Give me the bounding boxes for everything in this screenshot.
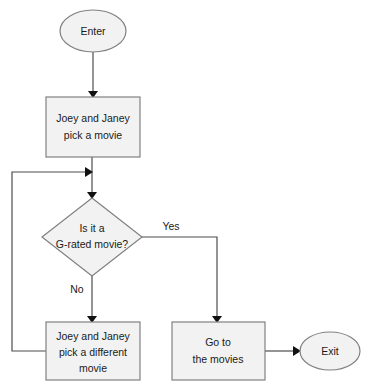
decision-label-line-2: G-rated movie?	[56, 238, 129, 250]
edge-decision-yes-to-go-to-movies	[142, 237, 222, 323]
edge-enter-to-pick-movie	[88, 52, 98, 98]
flowchart-canvas: Enter Joey and Janey pick a movie Is it …	[0, 0, 370, 385]
pick-movie-label-line-2: pick a movie	[64, 129, 123, 141]
edge-label-no: No	[70, 283, 84, 295]
edge-label-yes: Yes	[162, 220, 179, 232]
pick-movie-rect[interactable]	[46, 97, 140, 157]
edge-decision-no-to-pick-different	[87, 276, 97, 323]
node-enter[interactable]: Enter	[60, 10, 126, 52]
pick-different-label-line-2: pick a different	[59, 346, 127, 358]
node-go-to-movies[interactable]: Go to the movies	[172, 322, 265, 380]
edge-pick-movie-to-decision	[87, 157, 97, 199]
exit-label: Exit	[321, 345, 339, 357]
pick-movie-label-line-1: Joey and Janey	[56, 112, 130, 124]
edge-line	[142, 237, 217, 317]
node-g-rated-decision[interactable]: Is it a G-rated movie?	[42, 198, 142, 276]
go-to-movies-label-line-1: Go to	[205, 336, 231, 348]
go-to-movies-label-line-2: the movies	[193, 353, 244, 365]
go-to-movies-rect[interactable]	[172, 322, 265, 380]
node-pick-different-movie[interactable]: Joey and Janey pick a different movie	[46, 322, 140, 380]
decision-label-line-1: Is it a	[79, 222, 104, 234]
node-pick-movie[interactable]: Joey and Janey pick a movie	[46, 97, 140, 157]
enter-label: Enter	[80, 25, 106, 37]
node-exit[interactable]: Exit	[300, 332, 360, 370]
flowchart-page: Enter Joey and Janey pick a movie Is it …	[0, 0, 370, 385]
edge-go-to-movies-to-exit	[265, 346, 301, 356]
pick-different-label-line-1: Joey and Janey	[56, 330, 130, 342]
pick-different-label-line-3: movie	[79, 362, 107, 374]
